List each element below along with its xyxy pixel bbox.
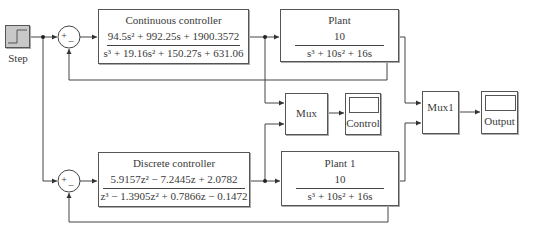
step-label: Step (0, 52, 36, 64)
scope-screen-icon (485, 95, 516, 111)
sum2-block[interactable] (58, 170, 80, 192)
plant1-denominator: s³ + 10s² + 16s (282, 190, 398, 202)
mux1-block[interactable]: Mux1 (422, 91, 459, 134)
plant-denominator: s³ + 10s² + 16s (281, 47, 398, 59)
wires-layer (0, 0, 556, 229)
continuous-controller-title: Continuous controller (99, 14, 248, 26)
fraction-bar (296, 188, 384, 189)
split-point-step (41, 35, 45, 39)
output-scope-block[interactable]: Output (481, 91, 518, 134)
fraction-bar (295, 45, 384, 46)
plant1-title: Plant 1 (282, 157, 398, 169)
scope-screen-icon (349, 97, 379, 113)
plant-title: Plant (281, 14, 398, 26)
sum1-block[interactable] (58, 26, 80, 48)
plant1-block[interactable]: Plant 1 10 s³ + 10s² + 16s (281, 151, 399, 206)
discrete-controller-numerator: 5.9157z² − 7.2445z + 2.0782 (99, 173, 249, 185)
split-point-continuous (263, 35, 267, 39)
discrete-controller-block[interactable]: Discrete controller 5.9157z² − 7.2445z +… (98, 152, 250, 207)
control-scope-label: Control (346, 117, 380, 129)
step-block[interactable] (5, 25, 30, 48)
fraction-bar (103, 188, 245, 189)
fraction-bar (107, 45, 240, 46)
discrete-controller-title: Discrete controller (99, 157, 249, 169)
plant1-numerator: 10 (282, 173, 398, 185)
plant-numerator: 10 (281, 30, 398, 42)
step-icon (6, 26, 29, 47)
continuous-controller-numerator: 94.5s² + 992.25s + 1900.3572 (99, 30, 248, 42)
mux1-label: Mux1 (423, 101, 458, 113)
mux-block[interactable]: Mux (285, 93, 328, 135)
continuous-controller-block[interactable]: Continuous controller 94.5s² + 992.25s +… (98, 9, 249, 64)
plant-block[interactable]: Plant 10 s³ + 10s² + 16s (280, 9, 399, 62)
control-scope-block[interactable]: Control (345, 93, 381, 135)
mux-label: Mux (286, 107, 327, 119)
output-scope-label: Output (482, 115, 517, 127)
discrete-controller-denominator: z³ − 1.3905z² + 0.7866z − 0.1472 (99, 190, 249, 202)
continuous-controller-denominator: s³ + 19.16s² + 150.27s + 631.06 (99, 47, 248, 59)
split-point-discrete (263, 179, 267, 183)
